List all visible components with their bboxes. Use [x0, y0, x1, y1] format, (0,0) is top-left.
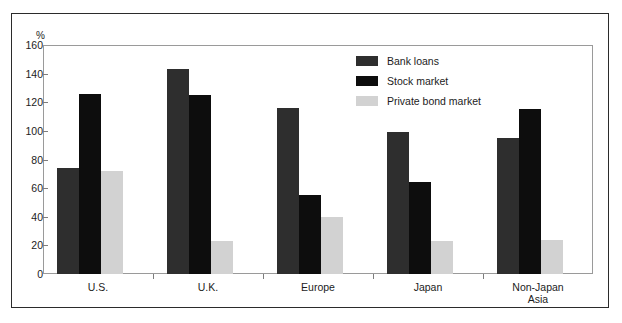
x-axis-category-label: Non-Japan Asia [483, 281, 593, 305]
y-axis: 020406080100120140160 [0, 0, 43, 323]
bar [519, 109, 541, 274]
y-axis-tick-mark [43, 245, 48, 246]
legend-item: Bank loans [356, 52, 481, 69]
y-axis-tick-label: 100 [1, 125, 43, 137]
y-axis-tick-label: 60 [1, 182, 43, 194]
bar [167, 69, 189, 274]
legend-item: Stock market [356, 72, 481, 89]
bar [409, 182, 431, 274]
y-axis-tick-label: 0 [1, 268, 43, 280]
bar [277, 108, 299, 274]
bar [101, 171, 123, 274]
legend-item: Private bond market [356, 92, 481, 109]
x-axis-category-label: Japan [373, 281, 483, 293]
x-axis-tick-mark [263, 274, 264, 279]
x-axis-category-label: U.S. [43, 281, 153, 293]
bar [299, 195, 321, 274]
bar [189, 95, 211, 274]
legend-item-label: Bank loans [387, 55, 439, 67]
bar [387, 132, 409, 274]
bar [541, 240, 563, 274]
legend-swatch-icon [356, 76, 378, 86]
x-axis-tick-mark [153, 274, 154, 279]
legend-item-label: Private bond market [387, 95, 481, 107]
legend-swatch-icon [356, 96, 378, 106]
legend-swatch-icon [356, 56, 378, 66]
y-axis-tick-label: 140 [1, 68, 43, 80]
bar [321, 217, 343, 274]
y-axis-tick-label: 40 [1, 211, 43, 223]
y-axis-tick-mark [43, 102, 48, 103]
bar [79, 94, 101, 274]
chart-figure: % 020406080100120140160 U.S.U.K.EuropeJa… [0, 0, 622, 323]
y-axis-tick-mark [43, 131, 48, 132]
bar [211, 241, 233, 274]
legend-item-label: Stock market [387, 75, 448, 87]
x-axis-tick-mark [373, 274, 374, 279]
y-axis-tick-mark [43, 217, 48, 218]
y-axis-tick-label: 160 [1, 39, 43, 51]
x-axis-category-label: Europe [263, 281, 373, 293]
y-axis-tick-mark [43, 160, 48, 161]
y-axis-tick-label: 120 [1, 96, 43, 108]
y-axis-tick-label: 20 [1, 239, 43, 251]
bar [431, 241, 453, 274]
y-axis-tick-label: 80 [1, 154, 43, 166]
x-axis-tick-mark [483, 274, 484, 279]
chart-legend: Bank loansStock marketPrivate bond marke… [356, 52, 481, 112]
x-axis-category-label: U.K. [153, 281, 263, 293]
y-axis-tick-mark [43, 74, 48, 75]
y-axis-tick-mark [43, 188, 48, 189]
bar [57, 168, 79, 274]
bar [497, 138, 519, 274]
